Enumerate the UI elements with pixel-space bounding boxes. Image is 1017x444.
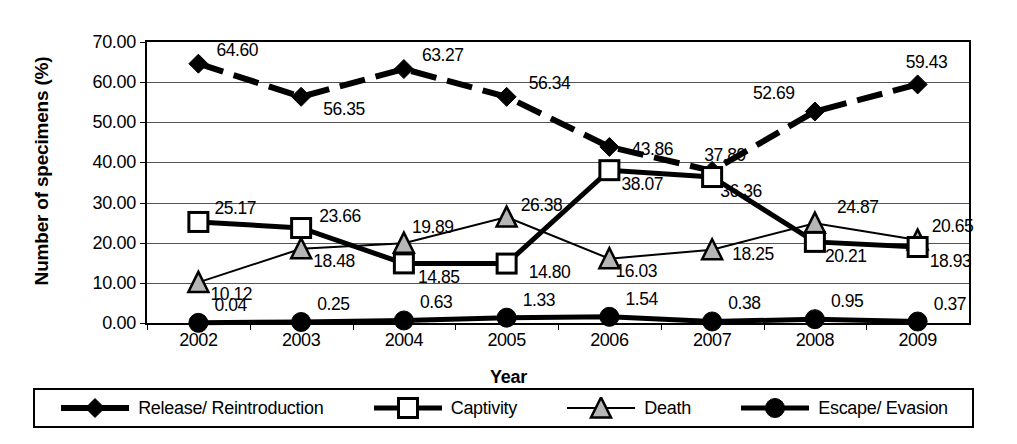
x-axis-tick [353, 323, 354, 330]
data-point-marker [189, 212, 208, 231]
y-tick-label: 50.00 [50, 113, 136, 131]
data-label: 23.66 [319, 208, 361, 225]
legend-item-2[interactable]: Death [565, 397, 691, 419]
data-label: 36.36 [720, 183, 762, 200]
y-axis-tick [140, 243, 147, 244]
chart-legend: Release/ ReintroductionCaptivityDeathEsc… [33, 388, 974, 428]
data-label: 14.80 [529, 264, 571, 281]
data-point-marker [394, 60, 413, 79]
data-label: 37.89 [704, 147, 746, 164]
data-point-marker [394, 311, 413, 330]
data-label: 0.37 [934, 296, 966, 313]
data-point-marker [497, 87, 516, 106]
x-tick-label: 2007 [672, 331, 752, 349]
chart-container: Number of specimens (%) 0.0010.0020.0030… [0, 0, 1017, 444]
data-label: 43.86 [631, 141, 673, 158]
x-tick-label: 2008 [775, 331, 855, 349]
data-label: 0.38 [728, 295, 760, 312]
y-axis-tick [140, 82, 147, 83]
y-axis-tick [140, 122, 147, 123]
legend-swatch [59, 397, 131, 419]
data-label: 0.63 [420, 294, 452, 311]
y-tick-label: 0.00 [50, 314, 136, 332]
data-point-marker [805, 232, 824, 251]
x-axis-tick [455, 323, 456, 330]
data-label: 59.43 [906, 54, 948, 71]
data-point-marker [766, 399, 785, 418]
data-label: 0.04 [214, 297, 246, 314]
data-point-marker [86, 399, 105, 418]
y-axis-tick [140, 323, 147, 324]
data-label: 1.54 [625, 291, 657, 308]
legend-item-3[interactable]: Escape/ Evasion [739, 397, 948, 419]
data-label: 16.03 [615, 263, 657, 280]
x-tick-label: 2006 [569, 331, 649, 349]
x-axis-tick [661, 323, 662, 330]
data-point-marker [497, 308, 516, 327]
data-point-marker [600, 161, 619, 180]
data-label: 0.25 [317, 296, 349, 313]
data-label: 26.38 [521, 197, 563, 214]
data-label: 24.87 [837, 199, 879, 216]
data-point-marker [703, 312, 722, 331]
x-axis-title: Year [0, 367, 1017, 388]
data-label: 14.85 [418, 269, 460, 286]
legend-label: Death [644, 398, 691, 419]
data-label: 19.89 [412, 219, 454, 236]
data-point-marker [292, 219, 311, 238]
legend-label: Release/ Reintroduction [138, 398, 323, 419]
x-axis-tick [558, 323, 559, 330]
legend-item-0[interactable]: Release/ Reintroduction [59, 397, 323, 419]
data-point-marker [292, 312, 311, 331]
data-label: 63.27 [422, 47, 464, 64]
data-point-marker [394, 254, 413, 273]
data-point-marker [908, 238, 927, 257]
y-tick-label: 10.00 [50, 274, 136, 292]
data-point-marker [600, 137, 619, 156]
data-label: 56.35 [323, 101, 365, 118]
data-label: 20.65 [932, 218, 974, 235]
legend-swatch [739, 397, 811, 419]
legend-swatch [372, 397, 444, 419]
x-tick-label: 2005 [467, 331, 547, 349]
data-point-marker [292, 87, 311, 106]
legend-label: Captivity [451, 398, 517, 419]
data-label: 18.48 [313, 253, 355, 270]
data-point-marker [497, 254, 516, 273]
y-axis-tick [140, 203, 147, 204]
x-axis-tick [866, 323, 867, 330]
data-label: 1.33 [523, 292, 555, 309]
data-point-marker [188, 272, 208, 292]
data-label: 0.95 [831, 293, 863, 310]
data-point-marker [702, 239, 722, 259]
legend-label: Escape/ Evasion [818, 398, 948, 419]
data-point-marker [600, 307, 619, 326]
x-tick-label: 2002 [158, 331, 238, 349]
data-label: 56.34 [529, 75, 571, 92]
data-point-marker [497, 207, 517, 227]
y-tick-label: 30.00 [50, 194, 136, 212]
y-axis-tick [140, 162, 147, 163]
legend-swatch [565, 397, 637, 419]
legend-item-1[interactable]: Captivity [372, 397, 517, 419]
x-tick-label: 2003 [261, 331, 341, 349]
data-label: 18.25 [732, 246, 774, 263]
data-point-marker [908, 312, 927, 331]
data-label: 52.69 [753, 85, 795, 102]
data-label: 64.60 [216, 42, 258, 59]
y-tick-label: 40.00 [50, 153, 136, 171]
data-label: 38.07 [621, 176, 663, 193]
data-point-marker [908, 75, 927, 94]
data-label: 25.17 [214, 200, 256, 217]
data-point-marker [189, 54, 208, 73]
data-label: 20.21 [825, 248, 867, 265]
y-axis-tick [140, 283, 147, 284]
data-point-marker [805, 310, 824, 329]
y-tick-label: 60.00 [50, 73, 136, 91]
data-point-marker [805, 213, 825, 233]
y-axis-tick [140, 42, 147, 43]
data-point-marker [398, 399, 417, 418]
x-axis-tick [147, 323, 148, 330]
y-tick-label: 20.00 [50, 234, 136, 252]
x-axis-tick [764, 323, 765, 330]
